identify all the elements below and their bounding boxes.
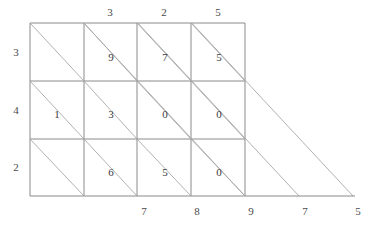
cell-digit-r1-c3: 0 [212,109,226,120]
top-label-2: 2 [156,7,172,18]
left-label-0: 3 [8,47,24,58]
left-label-1: 4 [8,105,24,116]
bottom-label-2: 9 [243,206,259,217]
cell-digit-r1-c0: 1 [50,109,64,120]
top-label-1: 3 [102,7,118,18]
cell-diagonal-r2-c0 [30,139,84,196]
left-label-2: 2 [8,162,24,173]
bottom-label-1: 8 [189,206,205,217]
cell-diagonal-r0-c0 [30,23,84,81]
cell-digit-r0-c1: 9 [104,52,118,63]
cell-digit-r1-c1: 3 [104,109,118,120]
cell-digit-r0-c2: 7 [158,52,172,63]
bottom-label-0: 7 [136,206,152,217]
cell-digit-r0-c3: 5 [212,52,226,63]
bottom-label-3: 7 [297,206,313,217]
lattice-multiplication-figure: 325 342 78975 9751300650 [0,0,374,230]
cell-digit-r2-c3: 0 [212,167,226,178]
cell-digit-r2-c2: 5 [158,167,172,178]
top-label-3: 5 [210,7,226,18]
cell-digit-r2-c1: 6 [104,167,118,178]
cell-digit-r1-c2: 0 [158,109,172,120]
bottom-label-4: 5 [350,206,366,217]
